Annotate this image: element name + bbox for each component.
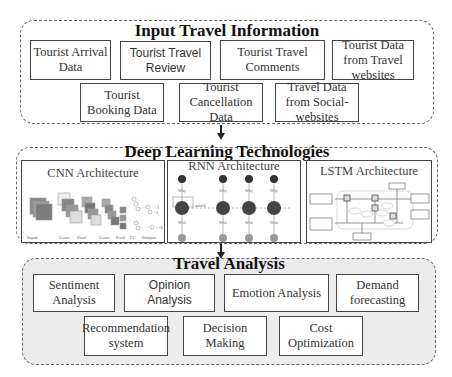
input-item-tourist-comments: Tourist Travel Comments: [220, 40, 325, 80]
svg-text:Pool: Pool: [77, 235, 87, 240]
svg-text:Conv: Conv: [99, 235, 110, 240]
analysis-item-recommendation: Recommendation system: [84, 316, 168, 356]
svg-text:Why: Why: [270, 188, 278, 193]
svg-text:unfold: unfold: [195, 203, 205, 208]
rnn-diagram-icon: WhyWhyWhyWhy WxhWxhWxhWxh unfold: [168, 161, 301, 243]
svg-text:Input: Input: [27, 235, 38, 240]
input-item-tourist-review: Tourist Travel Review: [120, 41, 211, 80]
cnn-diagram-icon: +1-1->k InputConvPool ConvPoolFCOutput: [22, 161, 165, 243]
cnn-architecture-panel: CNN Architecture: [21, 160, 165, 243]
svg-text:Wxh: Wxh: [245, 220, 253, 225]
input-item-booking: Tourist Booking Data: [80, 83, 164, 122]
analysis-item-cost-optimization: Cost Optimization: [279, 316, 363, 356]
analysis-item-demand-forecasting: Demand forecasting: [336, 274, 419, 312]
input-item-tourist-arrival: Tourist Arrival Data: [30, 40, 111, 80]
svg-text:-1: -1: [154, 210, 159, 215]
svg-text:Conv: Conv: [59, 235, 70, 240]
analysis-item-opinion: Opinion Analysis: [124, 274, 215, 312]
input-item-social-websites: Travel Data from Social-websites: [275, 83, 359, 122]
analysis-item-decision-making: Decision Making: [183, 316, 267, 356]
svg-text:FC: FC: [130, 235, 137, 240]
analysis-group-title: Travel Analysis: [23, 254, 435, 274]
svg-text:Wxh: Wxh: [270, 220, 278, 225]
svg-text:Wxh: Wxh: [219, 220, 227, 225]
svg-text:Why: Why: [245, 188, 253, 193]
input-item-cancellation: Tourist Cancellation Data: [179, 83, 263, 122]
deep-learning-group-title: Deep Learning Technologies: [17, 142, 437, 162]
lstm-architecture-panel: LSTM Architecture: [306, 160, 432, 243]
svg-text:->k: ->k: [156, 225, 163, 230]
lstm-diagram-icon: [307, 161, 432, 243]
svg-text:Why: Why: [219, 188, 227, 193]
svg-text:Pool: Pool: [116, 235, 126, 240]
rnn-architecture-panel: RNN Architecture WhyWhyWhyWhy WxhWxhWxhW…: [167, 160, 301, 243]
analysis-item-emotion: Emotion Analysis: [224, 274, 329, 312]
svg-text:Why: Why: [178, 188, 186, 193]
analysis-item-sentiment: Sentiment Analysis: [33, 274, 115, 312]
svg-text:Wxh: Wxh: [178, 220, 186, 225]
svg-text:Output: Output: [142, 235, 157, 240]
input-item-travel-websites: Tourist Data from Travel websites: [332, 40, 414, 80]
cnn-layer-labels: InputConvPool ConvPoolFCOutput: [27, 235, 157, 240]
